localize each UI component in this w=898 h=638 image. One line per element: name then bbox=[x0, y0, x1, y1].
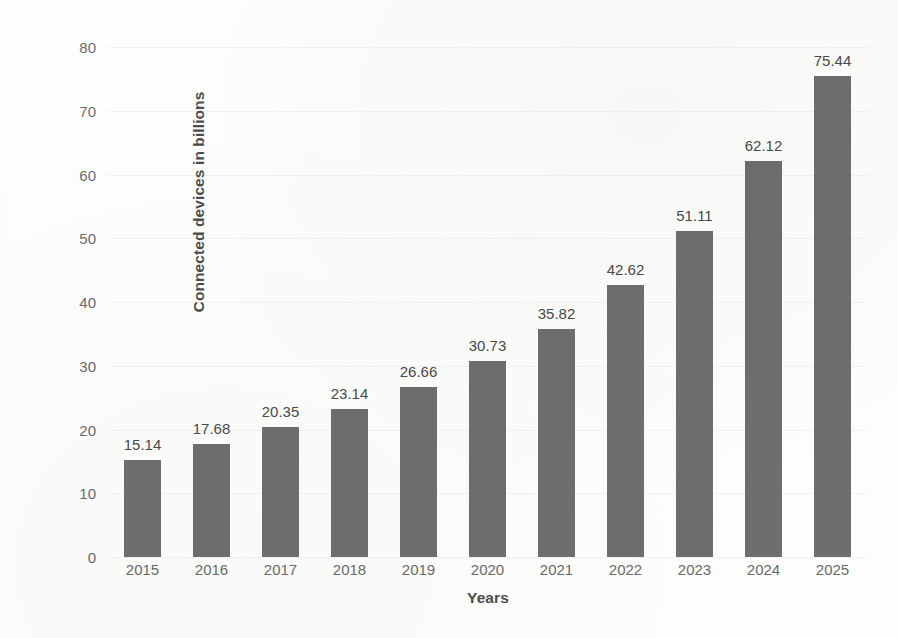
bar-value-label: 51.11 bbox=[660, 207, 729, 224]
x-axis-title: Years bbox=[108, 589, 868, 607]
bar[interactable] bbox=[607, 285, 644, 557]
bar-value-label: 30.73 bbox=[453, 337, 522, 354]
y-axis-tick-label: 50 bbox=[62, 230, 96, 247]
gridline bbox=[108, 557, 868, 558]
y-axis-title: Connected devices in billions bbox=[190, 42, 208, 362]
bar-value-label: 17.68 bbox=[177, 420, 246, 437]
y-axis-tick-label: 20 bbox=[62, 421, 96, 438]
bar-value-label: 75.44 bbox=[798, 52, 867, 69]
plot-area: 01020304050607080 15.1417.6820.3523.1426… bbox=[108, 47, 868, 557]
bar-value-label: 15.14 bbox=[108, 436, 177, 453]
x-axis-tick-label: 2017 bbox=[246, 561, 315, 578]
bar-slot: 42.62 bbox=[591, 47, 660, 557]
bar[interactable] bbox=[400, 387, 437, 557]
x-axis-tick-label: 2016 bbox=[177, 561, 246, 578]
bar[interactable] bbox=[331, 409, 368, 557]
bar-slot: 26.66 bbox=[384, 47, 453, 557]
bar-slot: 62.12 bbox=[729, 47, 798, 557]
bar-value-label: 26.66 bbox=[384, 363, 453, 380]
x-axis-tick-label: 2023 bbox=[660, 561, 729, 578]
bar-value-label: 23.14 bbox=[315, 385, 384, 402]
bar-chart: 01020304050607080 15.1417.6820.3523.1426… bbox=[0, 0, 898, 638]
y-axis-tick-label: 60 bbox=[62, 166, 96, 183]
bar-slot: 30.73 bbox=[453, 47, 522, 557]
bar-slot: 17.68 bbox=[177, 47, 246, 557]
bar-value-label: 62.12 bbox=[729, 137, 798, 154]
x-axis-tick-label: 2024 bbox=[729, 561, 798, 578]
bar[interactable] bbox=[814, 76, 851, 557]
y-axis-tick-label: 40 bbox=[62, 294, 96, 311]
bar[interactable] bbox=[262, 427, 299, 557]
y-axis-tick-label: 70 bbox=[62, 102, 96, 119]
x-axis-tick-label: 2015 bbox=[108, 561, 177, 578]
bar[interactable] bbox=[193, 444, 230, 557]
y-axis-tick-label: 30 bbox=[62, 357, 96, 374]
x-axis-tick-label: 2019 bbox=[384, 561, 453, 578]
y-axis-tick-label: 80 bbox=[62, 39, 96, 56]
bar-slot: 23.14 bbox=[315, 47, 384, 557]
bar-value-label: 42.62 bbox=[591, 261, 660, 278]
bar-slot: 20.35 bbox=[246, 47, 315, 557]
bar[interactable] bbox=[469, 361, 506, 557]
bar-slot: 51.11 bbox=[660, 47, 729, 557]
y-axis-tick-label: 0 bbox=[62, 549, 96, 566]
x-axis-tick-label: 2022 bbox=[591, 561, 660, 578]
bar[interactable] bbox=[538, 329, 575, 557]
x-axis-tick-label: 2025 bbox=[798, 561, 867, 578]
bar-value-label: 20.35 bbox=[246, 403, 315, 420]
bar-slot: 75.44 bbox=[798, 47, 867, 557]
y-axis-tick-label: 10 bbox=[62, 485, 96, 502]
x-axis-tick-label: 2021 bbox=[522, 561, 591, 578]
bar-slot: 15.14 bbox=[108, 47, 177, 557]
bar[interactable] bbox=[676, 231, 713, 557]
bar-slot: 35.82 bbox=[522, 47, 591, 557]
x-axis-tick-label: 2020 bbox=[453, 561, 522, 578]
x-axis-tick-label: 2018 bbox=[315, 561, 384, 578]
bar[interactable] bbox=[124, 460, 161, 557]
bar[interactable] bbox=[745, 161, 782, 557]
bar-value-label: 35.82 bbox=[522, 305, 591, 322]
